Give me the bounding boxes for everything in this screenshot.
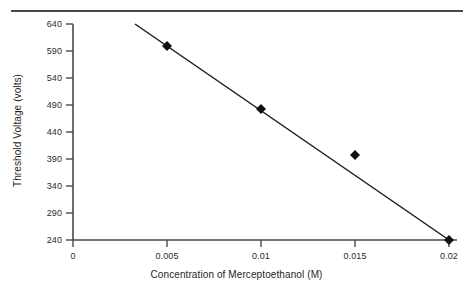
x-tick-label: 0.02 (426, 251, 472, 261)
x-tick-label: 0.015 (332, 251, 378, 261)
y-tick-label: 240 (32, 235, 62, 245)
y-tick-label: 390 (32, 154, 62, 164)
chart-figure: 640 590 540 490 440 390 340 290 240 0 0.… (0, 0, 473, 299)
x-axis-ticks (73, 240, 449, 247)
x-tick-label: 0.01 (238, 251, 284, 261)
trend-line (135, 24, 449, 240)
x-tick-label: 0.005 (144, 251, 190, 261)
data-point-marker (162, 41, 172, 51)
y-tick-label: 340 (32, 181, 62, 191)
y-tick-label: 590 (32, 46, 62, 56)
y-axis-title: Threshold Voltage (volts) (12, 51, 23, 211)
x-axis-title: Concentration of Merceptoethanol (M) (0, 269, 473, 280)
y-axis-ticks (66, 24, 73, 240)
data-point-marker (444, 235, 454, 245)
y-tick-label: 640 (32, 19, 62, 29)
y-tick-label: 440 (32, 127, 62, 137)
x-tick-label: 0 (50, 251, 96, 261)
y-tick-label: 540 (32, 73, 62, 83)
y-tick-label: 290 (32, 208, 62, 218)
data-point-marker (350, 150, 360, 160)
y-tick-label: 490 (32, 100, 62, 110)
